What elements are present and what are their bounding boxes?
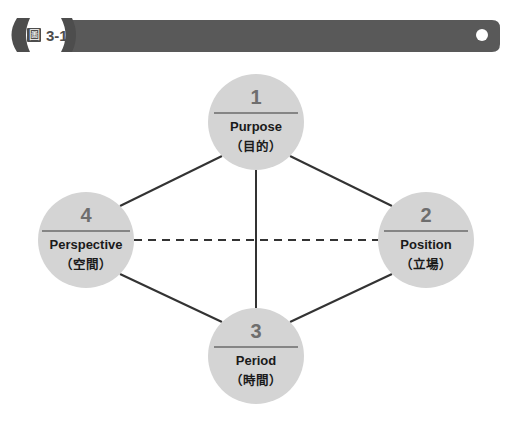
edge-position-period xyxy=(290,274,392,322)
node-purpose-number: 1 xyxy=(250,86,261,108)
node-purpose[interactable]: 1 Purpose （目的） xyxy=(208,74,304,170)
four-p-diagram: 1 Purpose （目的） 2 Position （立場） 3 Period … xyxy=(0,0,509,424)
node-purpose-label-en: Purpose xyxy=(230,119,282,134)
node-position[interactable]: 2 Position （立場） xyxy=(378,192,474,288)
node-perspective-label-en: Perspective xyxy=(50,237,123,252)
node-period-label-zh: （時間） xyxy=(230,373,282,388)
node-perspective-number: 4 xyxy=(80,204,92,226)
node-period-label-en: Period xyxy=(236,353,277,368)
node-period-number: 3 xyxy=(250,320,261,342)
diagram-edges xyxy=(120,156,392,322)
edge-period-perspective xyxy=(120,274,222,322)
node-position-label-en: Position xyxy=(400,237,451,252)
node-perspective[interactable]: 4 Perspective （空間） xyxy=(38,192,134,288)
node-purpose-label-zh: （目的） xyxy=(230,139,282,154)
node-perspective-label-zh: （空間） xyxy=(60,257,112,272)
edge-perspective-purpose xyxy=(120,156,222,206)
node-position-label-zh: （立場） xyxy=(400,257,452,272)
figure-page: 圖 3-11 1 Purpose （目的） xyxy=(0,0,509,424)
node-position-number: 2 xyxy=(420,204,431,226)
edge-purpose-position xyxy=(290,156,392,206)
node-period[interactable]: 3 Period （時間） xyxy=(208,308,304,404)
